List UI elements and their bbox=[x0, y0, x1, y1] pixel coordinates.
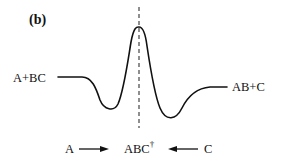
transition-state-label: ABC† bbox=[124, 139, 155, 156]
reactants-label: A+BC bbox=[13, 71, 46, 85]
products-label: AB+C bbox=[232, 80, 265, 94]
dagger-mark: † bbox=[150, 139, 155, 149]
reaction-profile-diagram: (b) A+BC AB+C A ABC† C bbox=[0, 0, 284, 164]
bottom-left-label: A bbox=[65, 142, 74, 156]
bottom-right-label: C bbox=[204, 142, 212, 156]
left-arrow-icon bbox=[168, 146, 198, 152]
right-arrow-icon bbox=[79, 146, 109, 152]
energy-curve bbox=[58, 27, 227, 118]
panel-label: (b) bbox=[29, 12, 46, 28]
